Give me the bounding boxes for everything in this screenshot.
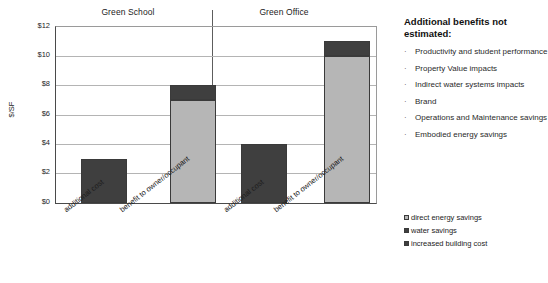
- chart-legend: direct energy savings water savings incr…: [404, 212, 548, 251]
- benefit-label: Indirect water systems impacts: [415, 80, 548, 91]
- legend-item-direct-energy-savings: direct energy savings: [404, 212, 548, 223]
- legend-swatch-icon: [404, 228, 409, 233]
- bar-segment-direct-energy-savings: [170, 100, 216, 203]
- bar-green-school-benefit: [170, 86, 216, 203]
- bullet-icon: ·: [404, 80, 415, 91]
- group-header-green-school: Green School: [66, 7, 190, 17]
- benefit-list-item: · Productivity and student performance: [404, 47, 548, 58]
- plot-area: [55, 26, 377, 204]
- y-tick-8: $8: [24, 80, 50, 88]
- benefit-label: Productivity and student performance: [415, 47, 548, 58]
- y-tick-12: $12: [24, 22, 50, 30]
- bullet-icon: ·: [404, 130, 415, 141]
- benefit-list-item: · Indirect water systems impacts: [404, 80, 548, 91]
- additional-benefits-title: Additional benefits not estimated:: [404, 16, 524, 40]
- bullet-icon: ·: [404, 113, 415, 124]
- bullet-icon: ·: [404, 47, 415, 58]
- y-tick-10: $10: [24, 51, 50, 59]
- benefit-label: Operations and Maintenance savings: [415, 113, 548, 124]
- legend-item-increased-building-cost: increased building cost: [404, 238, 548, 249]
- benefit-label: Brand: [415, 97, 548, 108]
- chart-screenshot: Green School Green Office $12 $10 $8 $6 …: [0, 0, 548, 283]
- legend-item-water-savings: water savings: [404, 225, 548, 236]
- benefit-list-item: · Property Value impacts: [404, 64, 548, 75]
- legend-label: water savings: [411, 225, 457, 236]
- y-tick-6: $6: [24, 110, 50, 118]
- bar-segment-direct-energy-savings: [324, 56, 370, 203]
- benefit-label: Property Value impacts: [415, 64, 548, 75]
- y-axis-title: $/SF: [7, 90, 16, 130]
- group-header-green-office: Green Office: [222, 7, 346, 17]
- benefit-label: Embodied energy savings: [415, 130, 548, 141]
- legend-label: direct energy savings: [411, 212, 482, 223]
- y-tick-4: $4: [24, 139, 50, 147]
- y-axis: $12 $10 $8 $6 $4 $2 $0: [20, 26, 50, 202]
- bar-green-office-benefit: [324, 42, 370, 203]
- bullet-icon: ·: [404, 64, 415, 75]
- legend-swatch-icon: [404, 215, 409, 220]
- bar-segment-water-savings: [324, 41, 370, 56]
- benefit-list-item: · Brand: [404, 97, 548, 108]
- legend-swatch-icon: [404, 241, 409, 246]
- benefit-list-item: · Operations and Maintenance savings: [404, 113, 548, 124]
- y-tick-2: $2: [24, 168, 50, 176]
- y-tick-0: $0: [24, 198, 50, 206]
- chart-panel: Green School Green Office $12 $10 $8 $6 …: [0, 0, 392, 283]
- benefit-list-item: · Embodied energy savings: [404, 130, 548, 141]
- bar-segment-water-savings: [170, 85, 216, 100]
- bullet-icon: ·: [404, 97, 415, 108]
- legend-label: increased building cost: [411, 238, 487, 249]
- additional-benefits-panel: Additional benefits not estimated: · Pro…: [404, 16, 548, 146]
